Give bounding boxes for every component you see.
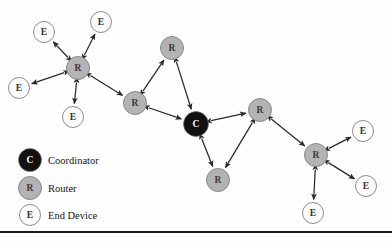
node-circle (249, 99, 272, 122)
network-link-r3-c1 (176, 62, 191, 109)
network-topology-diagram: REEEERRCRRREEECCoordinatorRRouterEEnd De… (0, 0, 392, 246)
node-router-r5[interactable]: R (207, 169, 230, 192)
network-link-r1-e3 (32, 73, 64, 84)
network-link-r6-e6 (328, 163, 354, 179)
legend-label: Coordinator (48, 155, 99, 166)
node-end-device-e2[interactable]: E (91, 12, 112, 33)
network-link-r6-e7 (314, 169, 316, 199)
node-router-r4[interactable]: R (249, 99, 272, 122)
node-circle (353, 121, 374, 142)
node-circle (184, 112, 209, 137)
node-router-r6[interactable]: R (305, 144, 328, 167)
network-link-r1-e1 (53, 42, 68, 58)
network-link-c1-r4 (211, 113, 246, 121)
legend-coordinator: CCoordinator (19, 149, 100, 172)
node-circle (124, 92, 147, 115)
node-end-device-e1[interactable]: E (34, 22, 55, 43)
legend-router: RRouter (19, 177, 78, 200)
node-circle (161, 37, 184, 60)
node-circle (91, 12, 112, 33)
node-circle (63, 107, 84, 128)
network-link-c1-r5 (202, 138, 213, 166)
node-coordinator-c1[interactable]: C (184, 112, 209, 137)
node-circle (303, 203, 324, 224)
legend-label: End Device (48, 210, 98, 221)
node-router-r3[interactable]: R (161, 37, 184, 60)
network-link-r2-r3 (143, 60, 164, 91)
diagram-canvas: REEEERRCRRREEECCoordinatorRRouterEEnd De… (0, 0, 392, 246)
node-circle (9, 78, 30, 99)
node-end-device-e7[interactable]: E (303, 203, 324, 224)
node-router-r2[interactable]: R (124, 92, 147, 115)
node-end-device-e5[interactable]: E (353, 121, 374, 142)
legend-label: Router (48, 183, 77, 194)
node-circle (356, 176, 377, 197)
node-circle (207, 169, 230, 192)
node-end-device-e4[interactable]: E (63, 107, 84, 128)
legend-swatch-router (19, 177, 42, 200)
node-circle (34, 22, 55, 43)
network-link-r2-c1 (149, 108, 182, 119)
network-link-r1-e2 (84, 34, 94, 55)
network-link-r6-e5 (329, 137, 351, 148)
legend-swatch-end-device (20, 205, 41, 226)
legend: CCoordinatorRRouterEEnd Device (19, 149, 100, 226)
network-link-r4-r6 (271, 119, 304, 146)
node-router-r1[interactable]: R (67, 57, 90, 80)
legend-swatch-coordinator (19, 149, 42, 172)
node-end-device-e6[interactable]: E (356, 176, 377, 197)
legend-end-device: EEnd Device (20, 205, 98, 226)
node-circle (67, 57, 90, 80)
node-circle (305, 144, 328, 167)
node-end-device-e3[interactable]: E (9, 78, 30, 99)
network-link-r4-r5 (225, 122, 252, 167)
network-link-r1-r2 (90, 76, 122, 96)
network-link-r1-e4 (74, 82, 76, 103)
